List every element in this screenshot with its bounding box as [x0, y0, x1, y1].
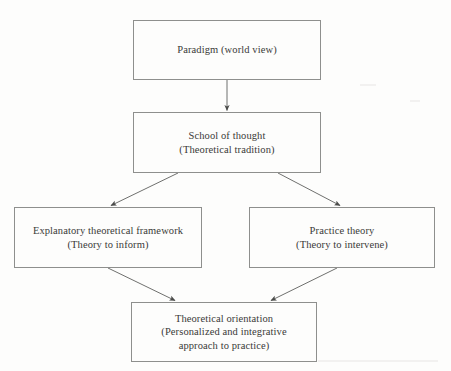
edge-school-to-explanatory: [111, 173, 178, 206]
edge-explanatory-to-orientation: [108, 268, 175, 301]
node-orientation-line-1: Theoretical orientation: [175, 312, 273, 326]
edge-school-to-practice: [278, 173, 340, 206]
node-practice-line-2: (Theory to intervene): [296, 238, 388, 252]
node-paradigm[interactable]: Paradigm (world view): [133, 20, 321, 80]
node-paradigm-line-1: Paradigm (world view): [177, 43, 277, 57]
node-school-of-thought[interactable]: School of thought (Theoretical tradition…: [133, 112, 321, 173]
node-practice-line-1: Practice theory: [310, 224, 375, 238]
edge-practice-to-orientation: [271, 268, 337, 301]
node-school-line-1: School of thought: [189, 129, 266, 143]
flowchart-diagram: Paradigm (world view) School of thought …: [0, 0, 451, 371]
node-explanatory-theoretical-framework[interactable]: Explanatory theoretical framework (Theor…: [14, 207, 202, 268]
node-explanatory-line-2: (Theory to inform): [67, 238, 148, 252]
node-theoretical-orientation[interactable]: Theoretical orientation (Personalized an…: [131, 302, 317, 362]
node-practice-theory[interactable]: Practice theory (Theory to intervene): [249, 207, 435, 268]
node-orientation-line-3: approach to practice): [179, 339, 270, 353]
node-orientation-line-2: (Personalized and integrative: [161, 325, 286, 339]
node-explanatory-line-1: Explanatory theoretical framework: [33, 224, 183, 238]
node-school-line-2: (Theoretical tradition): [179, 143, 274, 157]
